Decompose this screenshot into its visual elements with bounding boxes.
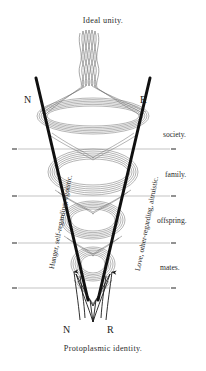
- node-letter-n-top: N: [24, 94, 31, 105]
- node-letter-r-top: R: [140, 94, 147, 105]
- node-letter-r-bottom: R: [107, 324, 114, 335]
- stage-label-family: family.: [165, 170, 186, 179]
- figure-caption: Protoplasmic identity.: [0, 344, 206, 353]
- stage-label-offspring: offspring.: [157, 216, 187, 225]
- protoplasmic-unity-diagram: Ideal unity.: [0, 0, 206, 371]
- node-letter-n-bottom: N: [63, 324, 70, 335]
- crossing-strands: [40, 86, 146, 305]
- stage-label-society: society.: [163, 130, 186, 139]
- stage-label-mates: mates.: [160, 263, 180, 272]
- braid-bundle: [79, 30, 99, 88]
- diagram-canvas: [0, 0, 206, 371]
